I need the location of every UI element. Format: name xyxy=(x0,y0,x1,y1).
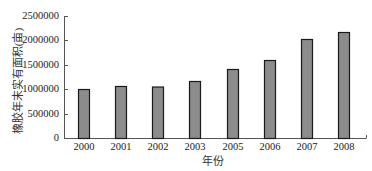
bar-2003 xyxy=(190,82,201,139)
y-axis-label: 橡胶年末实有面积(亩) xyxy=(9,28,25,134)
y-tick-label: 1000000 xyxy=(22,83,59,95)
y-tick-label: 2500000 xyxy=(22,10,59,22)
bar-2008 xyxy=(339,33,350,139)
y-tick-label: 500000 xyxy=(28,108,60,120)
x-tick-label: 2005 xyxy=(223,141,244,153)
x-tick-label: 2000 xyxy=(74,141,95,153)
bar-2001 xyxy=(116,86,127,138)
y-tick-label: 1500000 xyxy=(22,59,59,71)
x-tick-label: 2002 xyxy=(148,141,169,153)
x-tick-label: 2001 xyxy=(111,141,132,153)
y-tick-label: 2000000 xyxy=(22,34,59,46)
x-tick-label: 2007 xyxy=(297,141,318,153)
x-tick-label: 2006 xyxy=(260,141,281,153)
x-axis-label: 年份 xyxy=(202,152,224,168)
bar-chart: 05000001000000150000020000002500000 2000… xyxy=(0,0,372,171)
x-tick-label: 2008 xyxy=(334,141,355,153)
bar-2002 xyxy=(153,87,164,138)
bar-2005 xyxy=(228,69,239,138)
y-tick-label: 0 xyxy=(54,132,59,144)
bar-2006 xyxy=(265,61,276,139)
bar-2007 xyxy=(302,39,313,138)
bar-2000 xyxy=(79,90,90,139)
